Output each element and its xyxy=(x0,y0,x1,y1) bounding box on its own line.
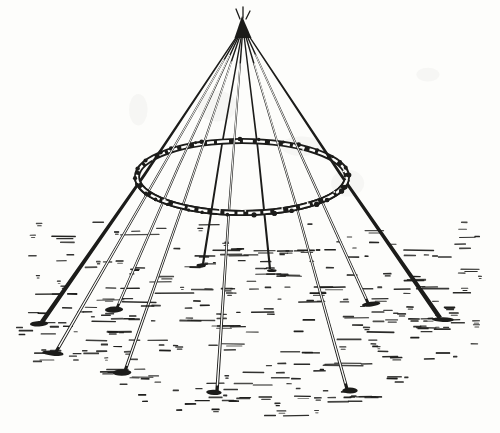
hatch-dash xyxy=(432,255,438,256)
hatch-dash xyxy=(459,237,476,238)
hatch-dash xyxy=(151,320,156,322)
hatch-dash xyxy=(438,256,452,257)
foot-tuft-dash xyxy=(41,349,46,351)
hatch-dash xyxy=(36,223,43,224)
hatch-dash xyxy=(286,383,292,384)
hatch-dash xyxy=(394,288,411,290)
hatch-dash xyxy=(337,338,362,340)
hatch-dash xyxy=(230,288,235,290)
hoop-knob xyxy=(135,166,139,170)
hatch-dash xyxy=(343,299,348,301)
hatch-dash xyxy=(200,304,210,306)
foot-tuft-dash xyxy=(417,328,428,329)
hatch-dash xyxy=(92,221,104,223)
hatch-dash xyxy=(369,242,379,244)
hatch-dash xyxy=(339,346,346,347)
paper-blotches xyxy=(129,68,439,197)
hatch-dash xyxy=(147,340,168,342)
apex-tip-stroke xyxy=(236,9,240,19)
hatch-dash xyxy=(105,313,114,315)
foot-tuft-dash xyxy=(255,268,265,270)
foot-tuft-dash xyxy=(50,326,59,328)
hatch-dash xyxy=(221,343,245,345)
hatch-dash xyxy=(185,403,197,405)
hatch-dash xyxy=(28,255,37,257)
hoop-knob xyxy=(238,137,243,142)
hatch-dash xyxy=(122,301,157,303)
hatch-dash xyxy=(186,317,194,318)
hatch-dash xyxy=(115,233,119,235)
foot-tuft-dash xyxy=(223,389,238,391)
foot-tuft-dash xyxy=(69,356,77,357)
hatch-dash xyxy=(408,318,420,320)
hatch-dash xyxy=(211,409,219,411)
foot-tuft-dash xyxy=(264,268,267,269)
hatch-dash xyxy=(111,318,124,320)
foot-tuft-dash xyxy=(451,322,465,323)
foot-tuft-dash xyxy=(393,312,398,313)
hatch-dash xyxy=(449,312,459,314)
foot-tuft-dash xyxy=(229,400,240,402)
hatch-dash xyxy=(462,290,467,291)
hatch-dash xyxy=(85,307,97,308)
hatch-dash xyxy=(264,415,276,417)
hoop-knob xyxy=(166,203,169,206)
hatch-dash xyxy=(195,388,202,389)
hatch-dash xyxy=(454,243,466,245)
hatch-dash xyxy=(378,350,389,352)
hatch-dash xyxy=(327,397,336,399)
hatch-dash xyxy=(85,266,98,268)
hatch-dash xyxy=(424,358,435,360)
hatch-dash xyxy=(287,253,292,254)
front-poles xyxy=(40,27,442,391)
foot-tuft-dash xyxy=(360,306,365,307)
hatch-dash xyxy=(180,287,184,288)
hatch-dash xyxy=(276,410,286,411)
hatch-dash xyxy=(213,411,219,412)
hatch-dash xyxy=(226,346,243,347)
foot-tuft-dash xyxy=(120,383,128,385)
hoop-knob xyxy=(154,198,158,202)
hatch-dash xyxy=(410,320,418,321)
pole-framework-engraving xyxy=(0,0,500,433)
hatch-dash xyxy=(114,231,119,233)
hatch-dash xyxy=(370,343,376,345)
hatch-dash xyxy=(249,288,259,289)
hoop-knob xyxy=(144,192,148,196)
paper-blotch xyxy=(129,94,147,125)
foot-tuft-dash xyxy=(47,322,55,323)
hatch-dash xyxy=(216,328,232,329)
hatch-dash xyxy=(410,337,419,339)
hoop-knob xyxy=(338,160,342,164)
foot-tuft-dash xyxy=(148,375,159,376)
hatch-dash xyxy=(253,384,273,385)
hatch-dash xyxy=(101,344,108,346)
hatch-dash xyxy=(387,376,402,377)
hatch-dash xyxy=(121,298,133,299)
hatch-dash xyxy=(227,295,232,296)
hoop-knob-highlight xyxy=(307,202,309,204)
foot-tuft-dash xyxy=(423,321,427,322)
foot-tuft-dash xyxy=(209,397,223,399)
hatch-dash xyxy=(373,320,385,322)
hatch-dash xyxy=(138,394,146,396)
foot-tuft xyxy=(30,320,49,326)
hatch-dash xyxy=(105,287,116,288)
foot-tuft-dash xyxy=(348,400,362,402)
hatch-dash xyxy=(474,323,480,324)
hatch-dash xyxy=(313,295,325,296)
hatch-dash xyxy=(105,301,114,302)
hatch-dash xyxy=(344,317,369,318)
hatch-dash xyxy=(375,301,387,302)
foot-tuft xyxy=(267,269,277,272)
hatch-dash xyxy=(363,327,370,329)
hatch-dash xyxy=(129,377,139,378)
hatch-dash xyxy=(453,356,457,358)
hatch-dash xyxy=(149,281,172,282)
hatch-dash xyxy=(105,360,108,361)
hatch-dash xyxy=(173,345,178,346)
hatch-dash xyxy=(91,320,116,322)
hatch-dash xyxy=(408,308,413,309)
hatch-dash xyxy=(297,249,315,251)
foot-tuft-dash xyxy=(195,400,210,401)
